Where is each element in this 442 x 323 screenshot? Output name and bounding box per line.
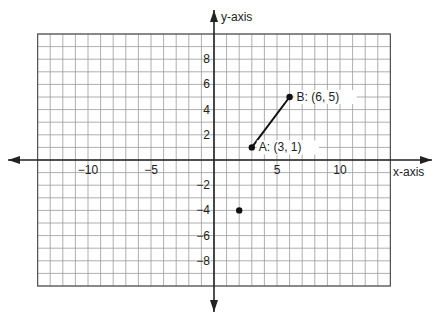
y-axis-label: y-axis — [221, 10, 252, 24]
data-series: A: (3, 1)B: (6, 5) — [236, 90, 357, 214]
x-tick-label: 5 — [274, 163, 281, 177]
y-tick-label: 8 — [203, 52, 210, 66]
y-tick-label: −8 — [196, 254, 210, 268]
point-marker-b — [286, 94, 292, 100]
axes — [8, 10, 432, 312]
x-axis-label: x-axis — [393, 165, 424, 179]
point-marker-a — [249, 144, 255, 150]
y-tick-label: 4 — [203, 103, 210, 117]
y-tick-label: 2 — [203, 128, 210, 142]
point-label: A: (3, 1) — [259, 140, 302, 154]
arrow-right-icon — [420, 156, 432, 164]
y-tick-label: −2 — [196, 178, 210, 192]
x-tick-label: −5 — [144, 163, 158, 177]
arrow-left-icon — [8, 156, 20, 164]
y-tick-label: −6 — [196, 229, 210, 243]
arrow-up-icon — [210, 10, 218, 22]
y-tick-label: 6 — [203, 77, 210, 91]
point-marker — [236, 207, 242, 213]
y-tick-label: −4 — [196, 203, 210, 217]
coordinate-plane: −10−55108642−2−4−6−8 A: (3, 1)B: (6, 5) … — [0, 0, 442, 323]
x-tick-label: −10 — [78, 163, 99, 177]
plot-svg: −10−55108642−2−4−6−8 A: (3, 1)B: (6, 5) … — [0, 0, 442, 323]
point-label: B: (6, 5) — [297, 90, 340, 104]
x-tick-label: 10 — [333, 163, 347, 177]
arrow-down-icon — [210, 300, 218, 312]
